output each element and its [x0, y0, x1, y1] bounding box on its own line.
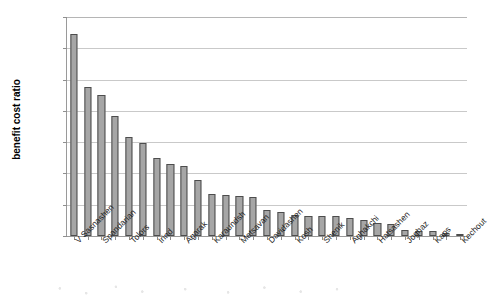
bar-slot [426, 17, 440, 236]
y-axis-title: benefit cost ratio [11, 40, 22, 200]
bar [181, 166, 188, 236]
bar [70, 34, 77, 236]
bar-slot [260, 17, 274, 236]
x-axis-labels: V SasnashenSpandarianTolorsIrindAgarakKa… [66, 238, 466, 298]
bar-series [67, 17, 467, 236]
bar-slot [357, 17, 371, 236]
bar-slot [398, 17, 412, 236]
bar-slot [233, 17, 247, 236]
bar-slot [412, 17, 426, 236]
plot-area: 0.020.040.060.080.0100.0120.0140.0 [66, 17, 467, 237]
bar-slot [122, 17, 136, 236]
bar-slot [164, 17, 178, 236]
bar-slot [191, 17, 205, 236]
bar-slot [274, 17, 288, 236]
bar-slot [288, 17, 302, 236]
y-axis-tick-mark [63, 236, 67, 237]
bar-slot [246, 17, 260, 236]
bar-slot [315, 17, 329, 236]
bar [153, 158, 160, 236]
bar-slot [136, 17, 150, 236]
bar [84, 87, 91, 236]
bar-slot [219, 17, 233, 236]
bar-slot [205, 17, 219, 236]
bar-slot [439, 17, 453, 236]
bar-slot [81, 17, 95, 236]
bar-slot [370, 17, 384, 236]
bar-slot [343, 17, 357, 236]
bar-slot [453, 17, 467, 236]
bar-slot [329, 17, 343, 236]
bar-slot [150, 17, 164, 236]
bar [208, 194, 215, 236]
bar-slot [177, 17, 191, 236]
bar-slot [384, 17, 398, 236]
bar-slot [67, 17, 81, 236]
bar [112, 116, 119, 236]
bar-slot [301, 17, 315, 236]
